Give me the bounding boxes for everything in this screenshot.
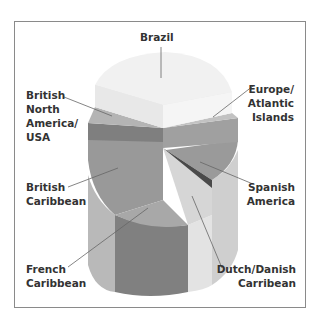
label-brazil: Brazil [140,30,174,44]
label-spanish-america: Spanish America [240,180,295,208]
label-french-caribbean: French Caribbean [26,262,86,290]
label-dutch-danish: Dutch/Danish Carribean [210,262,296,290]
french-caribbean-side [115,215,188,296]
label-europe-atlantic: Europe/ Atlantic Islands [238,82,294,124]
label-british-north-america: British North America/ USA [26,88,78,144]
dutch-danish-side [188,215,212,292]
label-british-caribbean: British Caribbean [26,180,86,208]
